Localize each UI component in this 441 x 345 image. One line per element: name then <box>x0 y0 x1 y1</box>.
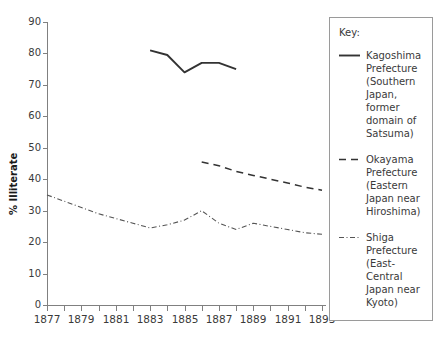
legend-box: Key: Kagoshima Prefecture (Southern Japa… <box>329 17 433 321</box>
solid-line-swatch <box>339 50 360 61</box>
legend-title: Key: <box>339 27 424 38</box>
series-line-shiga <box>47 195 322 234</box>
series-line-kagoshima <box>150 50 236 72</box>
series-line-okayama <box>202 162 322 190</box>
legend-label: Okayama Prefecture (Eastern Japan near H… <box>366 153 424 218</box>
dashdot-line-swatch <box>339 232 360 243</box>
dashed-line-swatch <box>339 154 360 165</box>
chart-root: % Illiterate 0102030405060708090 1877187… <box>0 0 441 345</box>
legend-entry-shiga[interactable]: Shiga Prefecture (East-Central Japan nea… <box>339 231 424 309</box>
legend-entry-okayama[interactable]: Okayama Prefecture (Eastern Japan near H… <box>339 153 424 218</box>
legend-entries: Kagoshima Prefecture (Southern Japan, fo… <box>339 49 424 309</box>
legend-entry-kagoshima[interactable]: Kagoshima Prefecture (Southern Japan, fo… <box>339 49 424 140</box>
legend-label: Shiga Prefecture (East-Central Japan nea… <box>366 231 424 309</box>
legend-label: Kagoshima Prefecture (Southern Japan, fo… <box>366 49 424 140</box>
